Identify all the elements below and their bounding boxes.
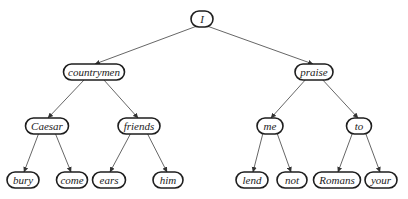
edge-friends-him — [147, 133, 167, 172]
node-label: me — [264, 120, 277, 132]
node-label: not — [285, 174, 300, 186]
node-label: him — [160, 174, 177, 186]
edge-to-Romans — [338, 133, 353, 172]
node-label: countrymen — [68, 66, 120, 78]
edge-countrymen-friends — [103, 79, 138, 118]
tree-node-not: not — [277, 172, 307, 188]
tree-node-i: I — [191, 11, 213, 27]
edge-friends-ears — [110, 133, 131, 172]
edge-countrymen-Caesar — [48, 79, 85, 118]
tree-node-lend: lend — [236, 172, 268, 188]
edges-group — [24, 26, 380, 172]
edge-praise-me — [271, 79, 306, 118]
node-label: friends — [124, 120, 155, 132]
tree-node-friends: friends — [118, 118, 160, 134]
node-label: bury — [13, 174, 33, 186]
edge-me-lend — [253, 133, 263, 172]
edge-I-countrymen — [95, 26, 197, 64]
tree-node-ears: ears — [93, 172, 126, 188]
tree-node-caesar: Caesar — [26, 118, 69, 134]
tree-node-come: come — [57, 172, 88, 188]
node-label: to — [355, 120, 364, 132]
tree-node-praise: praise — [295, 64, 333, 80]
edge-I-praise — [207, 26, 313, 64]
tree-node-to: to — [347, 118, 372, 134]
edge-to-your — [366, 133, 381, 172]
tree-node-countrymen: countrymen — [64, 64, 125, 80]
node-label: your — [370, 174, 392, 186]
tree-node-me: me — [257, 118, 283, 134]
edge-Caesar-bury — [24, 133, 39, 172]
tree-node-your: your — [365, 172, 397, 188]
node-label: come — [60, 174, 83, 186]
tree-diagram: IcountrymenpraiseCaesarfriendsmetoburyco… — [0, 0, 408, 199]
node-label: ears — [100, 174, 119, 186]
edge-praise-to — [322, 79, 358, 118]
node-label: Romans — [318, 174, 354, 186]
node-label: praise — [299, 66, 328, 78]
edge-me-not — [277, 133, 291, 172]
edge-Caesar-come — [55, 133, 71, 172]
node-label: lend — [243, 174, 262, 186]
tree-node-bury: bury — [7, 172, 39, 188]
tree-node-romans: Romans — [314, 172, 361, 188]
node-label: Caesar — [31, 120, 64, 132]
tree-node-him: him — [153, 172, 183, 188]
